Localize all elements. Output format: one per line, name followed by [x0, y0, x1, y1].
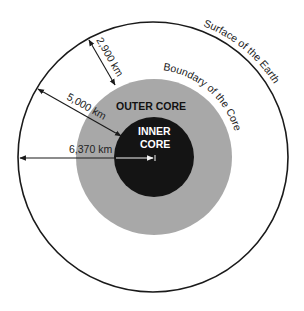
label-outer-core: OUTER CORE — [116, 100, 186, 112]
earth-layers-diagram: 2,900 km 5,000 km 6,370 km OUTER CORE IN… — [0, 0, 304, 311]
label-inner-core-1: INNER — [138, 125, 171, 137]
label-6370km: 6,370 km — [69, 143, 112, 155]
label-inner-core-2: CORE — [140, 138, 170, 150]
